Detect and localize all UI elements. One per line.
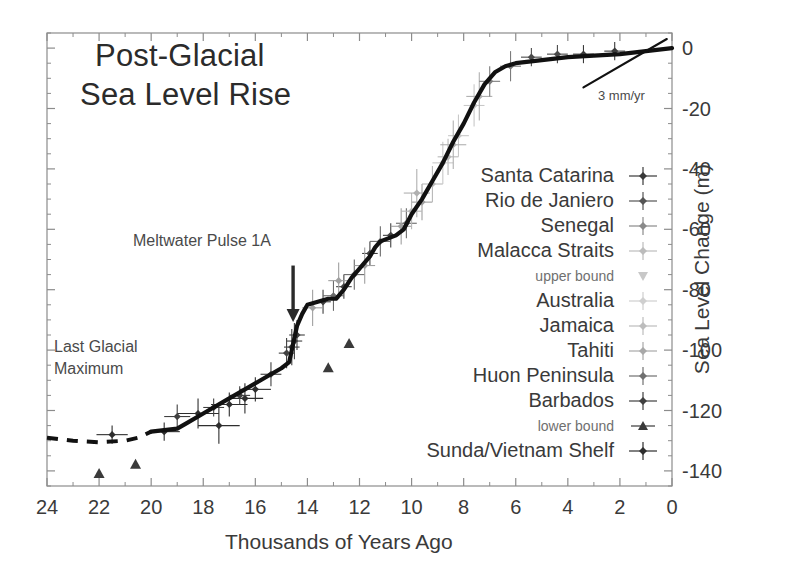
y-tick-label: -20	[682, 99, 711, 119]
legend-row[interactable]: Sunda/Vietnam Shelf	[360, 438, 665, 463]
legend-label: upper bound	[535, 268, 614, 284]
y-tick-label: -140	[682, 461, 722, 481]
x-tick-label: 10	[392, 496, 432, 519]
legend-marker-triangle-up-icon	[621, 415, 665, 437]
legend-label: Malacca Straits	[477, 239, 614, 262]
legend-label: Sunda/Vietnam Shelf	[426, 439, 614, 462]
legend-row[interactable]: Jamaica	[360, 313, 665, 338]
y-tick-label: -60	[682, 219, 711, 239]
x-tick-label: 16	[235, 496, 275, 519]
x-tick-label: 24	[27, 496, 67, 519]
lgm-dashed-segment	[47, 432, 151, 443]
legend-row[interactable]: Barbados	[360, 388, 665, 413]
x-tick-label: 0	[652, 496, 692, 519]
data-point	[323, 362, 334, 372]
x-tick-label: 12	[340, 496, 380, 519]
legend-row[interactable]: Australia	[360, 288, 665, 313]
legend-row[interactable]: Senegal	[360, 213, 665, 238]
legend-label: Senegal	[541, 214, 614, 237]
y-tick-label: -100	[682, 340, 722, 360]
legend-marker-diamond-errorbar-icon	[621, 215, 665, 237]
legend-label: lower bound	[538, 418, 614, 434]
x-tick-label: 20	[131, 496, 171, 519]
chart-legend: Santa CatarinaRio de JanieroSenegalMalac…	[360, 163, 665, 463]
annotation-last-glacial-maximum-line2: Maximum	[54, 360, 123, 378]
x-tick-label: 18	[183, 496, 223, 519]
data-point	[604, 42, 625, 60]
legend-marker-triangle-down-icon	[621, 265, 665, 287]
x-tick-label: 8	[444, 496, 484, 519]
annotation-marks-layer	[287, 266, 300, 322]
legend-row[interactable]: lower bound	[360, 413, 665, 438]
meltwater-pulse-arrow-icon	[287, 266, 300, 322]
annotation-modern-rate: 3 mm/yr	[598, 88, 645, 103]
legend-label: Santa Catarina	[481, 164, 614, 187]
legend-marker-diamond-errorbar-icon	[621, 240, 665, 262]
legend-label: Tahiti	[567, 339, 614, 362]
legend-marker-diamond-errorbar-icon	[621, 390, 665, 412]
legend-label: Barbados	[528, 389, 614, 412]
legend-row[interactable]: upper bound	[360, 263, 665, 288]
x-tick-label: 2	[600, 496, 640, 519]
x-tick-label: 22	[79, 496, 119, 519]
legend-marker-diamond-errorbar-icon	[621, 340, 665, 362]
annotation-meltwater-pulse-1a: Meltwater Pulse 1A	[133, 232, 271, 250]
x-axis-title: Thousands of Years Ago	[225, 530, 453, 554]
legend-label: Jamaica	[540, 314, 614, 337]
legend-marker-diamond-errorbar-icon	[621, 290, 665, 312]
legend-row[interactable]: Rio de Janiero	[360, 188, 665, 213]
legend-marker-diamond-errorbar-icon	[621, 165, 665, 187]
chart-title-line-2: Sea Level Rise	[80, 77, 291, 113]
legend-marker-diamond-errorbar-icon	[621, 365, 665, 387]
y-tick-label: 0	[682, 38, 693, 58]
data-point	[94, 468, 105, 478]
legend-row[interactable]: Santa Catarina	[360, 163, 665, 188]
y-tick-label: -80	[682, 280, 711, 300]
sea-level-chart-figure: Post-Glacial Sea Level Rise Thousands of…	[0, 0, 793, 577]
x-tick-label: 4	[548, 496, 588, 519]
data-point	[130, 459, 141, 469]
y-tick-label: -120	[682, 401, 722, 421]
modern-rate-tangent	[583, 39, 666, 87]
y-tick-label: -40	[682, 159, 711, 179]
x-tick-label: 14	[287, 496, 327, 519]
legend-label: Huon Peninsula	[473, 364, 614, 387]
x-tick-label: 6	[496, 496, 536, 519]
data-point	[344, 338, 355, 348]
legend-row[interactable]: Huon Peninsula	[360, 363, 665, 388]
legend-label: Rio de Janiero	[485, 189, 614, 212]
legend-label: Australia	[536, 289, 614, 312]
legend-marker-diamond-errorbar-icon	[621, 440, 665, 462]
legend-row[interactable]: Tahiti	[360, 338, 665, 363]
legend-row[interactable]: Malacca Straits	[360, 238, 665, 263]
annotation-last-glacial-maximum-line1: Last Glacial	[54, 338, 138, 356]
legend-marker-diamond-errorbar-icon	[621, 315, 665, 337]
chart-title-line-1: Post-Glacial	[95, 38, 265, 74]
legend-marker-diamond-errorbar-icon	[621, 190, 665, 212]
